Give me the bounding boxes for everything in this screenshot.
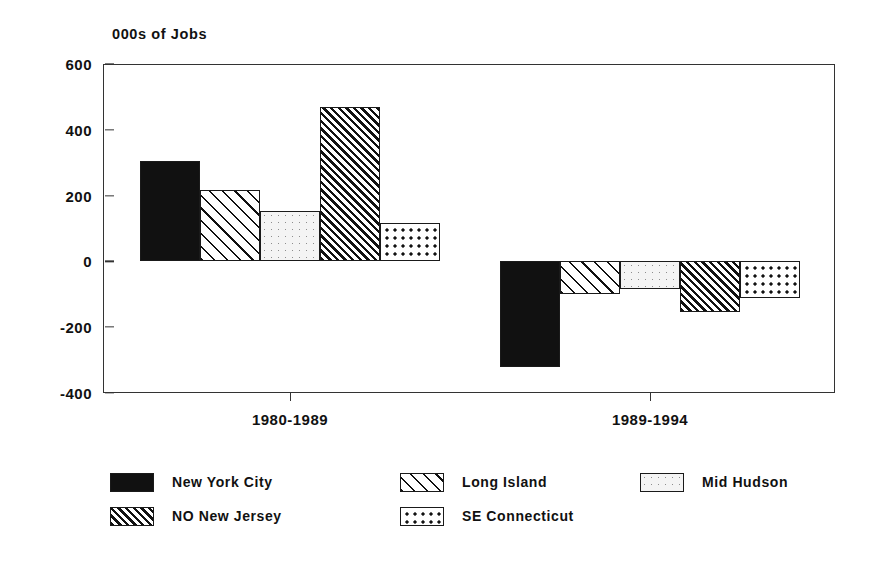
legend-swatch-icon (640, 473, 684, 492)
bar-long-island-1989-1994 (560, 261, 620, 294)
x-category-label: 1980-1989 (252, 411, 328, 428)
y-tick-mark (105, 392, 114, 393)
legend-row: NO New JerseySE Connecticut (110, 499, 810, 533)
legend-label: NO New Jersey (172, 508, 282, 524)
y-tick-label: 400 (24, 121, 92, 138)
legend-swatch-icon (110, 507, 154, 526)
legend-item-mid-hudson[interactable]: Mid Hudson (640, 465, 788, 499)
y-tick-label: -400 (24, 385, 92, 402)
legend-item-long-island[interactable]: Long Island (400, 465, 547, 499)
bar-se-connecticut-1980-1989 (380, 223, 440, 261)
legend-swatch-icon (110, 473, 154, 492)
chart-legend: New York CityLong IslandMid Hudson NO Ne… (110, 465, 810, 533)
bar-se-connecticut-1989-1994 (740, 261, 800, 298)
bar-mid-hudson-1980-1989 (260, 211, 320, 261)
legend-label: Long Island (462, 474, 547, 490)
y-tick-label: -200 (24, 319, 92, 336)
y-tick-label: 600 (24, 56, 92, 73)
y-tick-label: 0 (24, 253, 92, 270)
bar-mid-hudson-1989-1994 (620, 261, 680, 289)
x-category-label: 1989-1994 (612, 411, 688, 428)
bar-long-island-1980-1989 (200, 190, 260, 262)
y-tick-mark (105, 129, 114, 130)
y-tick-label: 200 (24, 187, 92, 204)
bar-new-york-city-1980-1989 (140, 161, 200, 261)
bar-no-new-jersey-1989-1994 (680, 261, 740, 312)
x-tick-mark (650, 393, 651, 401)
chart-title: 000s of Jobs (112, 26, 207, 42)
legend-item-no-new-jersey[interactable]: NO New Jersey (110, 499, 282, 533)
legend-row: New York CityLong IslandMid Hudson (110, 465, 810, 499)
y-axis: 6004002000-200-400 (10, 0, 92, 566)
legend-swatch-icon (400, 473, 444, 492)
legend-label: New York City (172, 474, 273, 490)
x-tick-mark (290, 393, 291, 401)
legend-label: Mid Hudson (702, 474, 788, 490)
y-tick-mark (105, 63, 114, 64)
bar-no-new-jersey-1980-1989 (320, 107, 380, 262)
legend-swatch-icon (400, 507, 444, 526)
y-tick-mark (105, 261, 114, 262)
y-tick-mark (105, 327, 114, 328)
bar-new-york-city-1989-1994 (500, 261, 560, 366)
legend-label: SE Connecticut (462, 508, 574, 524)
y-tick-mark (105, 195, 114, 196)
job-change-bar-chart: 000s of Jobs 6004002000-200-400 1980-198… (0, 0, 880, 566)
legend-item-new-york-city[interactable]: New York City (110, 465, 273, 499)
legend-item-se-connecticut[interactable]: SE Connecticut (400, 499, 574, 533)
